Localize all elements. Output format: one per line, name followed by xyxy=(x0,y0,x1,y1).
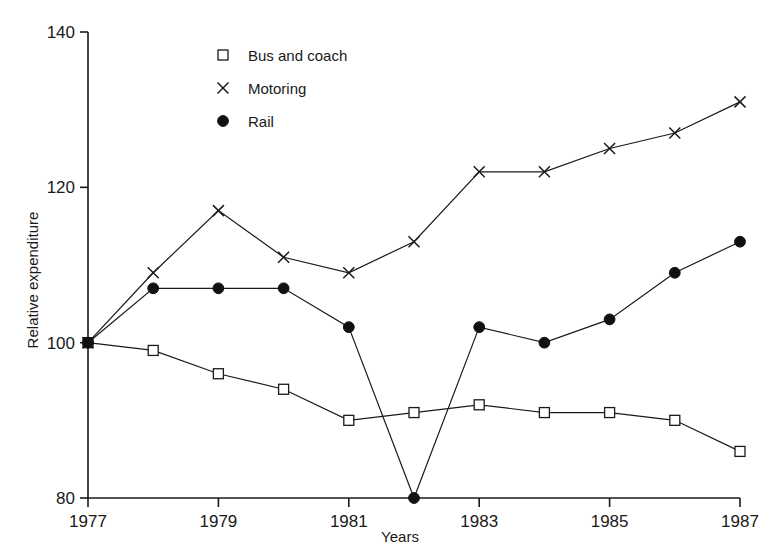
y-tick-label: 120 xyxy=(47,178,75,197)
data-point-marker xyxy=(604,314,615,325)
legend-marker-filled-circle xyxy=(218,116,229,127)
data-point-marker xyxy=(83,337,94,348)
x-tick-label: 1985 xyxy=(591,512,629,531)
x-tick-label: 1977 xyxy=(69,512,107,531)
data-point-marker xyxy=(213,369,223,379)
data-point-marker xyxy=(735,446,745,456)
y-tick-label: 80 xyxy=(56,489,75,508)
series-motoring xyxy=(83,96,746,348)
x-tick-label: 1987 xyxy=(721,512,759,531)
data-point-marker xyxy=(735,96,746,107)
legend-marker-open-square xyxy=(218,50,228,60)
y-tick-label: 140 xyxy=(47,23,75,42)
data-point-marker xyxy=(343,267,354,278)
data-point-marker xyxy=(343,322,354,333)
data-point-marker xyxy=(735,236,746,247)
y-axis-tick-labels: 80100120140 xyxy=(47,23,75,508)
plot-axes: 80100120140 197719791981198319851987 xyxy=(47,23,759,531)
axis-lines xyxy=(88,32,740,498)
legend-item-motoring: Motoring xyxy=(218,80,307,97)
data-point-marker xyxy=(474,400,484,410)
x-tick-label: 1981 xyxy=(330,512,368,531)
data-point-marker xyxy=(605,408,615,418)
chart-canvas: 80100120140 197719791981198319851987 Rel… xyxy=(0,0,765,552)
x-tick-label: 1983 xyxy=(460,512,498,531)
data-point-marker xyxy=(148,283,159,294)
x-tick-label: 1979 xyxy=(199,512,237,531)
legend-marker-cross xyxy=(218,83,229,94)
data-point-marker xyxy=(670,415,680,425)
data-point-marker xyxy=(409,493,420,504)
legend-label: Bus and coach xyxy=(248,47,347,64)
series-bus-and-coach xyxy=(83,338,745,457)
data-point-marker xyxy=(604,143,615,154)
series-line xyxy=(88,102,740,343)
data-point-marker xyxy=(278,283,289,294)
data-point-marker xyxy=(213,205,224,216)
legend-label: Rail xyxy=(248,113,274,130)
data-point-marker xyxy=(279,384,289,394)
legend-item-bus-and-coach: Bus and coach xyxy=(218,47,347,64)
y-tick-label: 100 xyxy=(47,334,75,353)
series-rail xyxy=(83,236,746,503)
x-axis-title: Years xyxy=(381,528,419,545)
legend-label: Motoring xyxy=(248,80,306,97)
data-point-marker xyxy=(148,267,159,278)
data-point-marker xyxy=(344,415,354,425)
data-point-marker xyxy=(539,408,549,418)
data-point-marker xyxy=(409,236,420,247)
data-point-marker xyxy=(213,283,224,294)
data-point-marker xyxy=(409,408,419,418)
series-line xyxy=(88,343,740,452)
chart-legend: Bus and coachMotoringRail xyxy=(218,47,348,130)
data-point-marker xyxy=(669,127,680,138)
data-point-marker xyxy=(148,345,158,355)
series-line xyxy=(88,242,740,498)
data-point-marker xyxy=(474,322,485,333)
data-point-marker xyxy=(278,252,289,263)
y-axis-title: Relative expenditure xyxy=(24,212,41,349)
series-layer xyxy=(83,96,746,503)
data-point-marker xyxy=(669,267,680,278)
y-axis-ticks xyxy=(80,32,88,498)
data-point-marker xyxy=(539,337,550,348)
legend-item-rail: Rail xyxy=(218,113,274,130)
line-chart: 80100120140 197719791981198319851987 Rel… xyxy=(0,0,765,552)
